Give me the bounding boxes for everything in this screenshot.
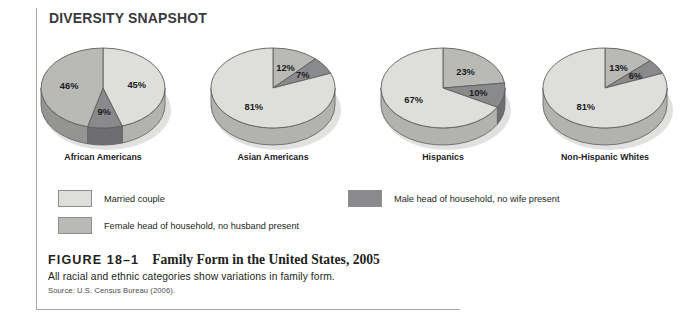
pie-chart-2: 12%7%81%Asian Americans xyxy=(188,32,358,184)
figure-number: FIGURE 18–1 xyxy=(48,253,139,267)
legend-row: Female head of household, no husband pre… xyxy=(58,217,618,237)
pie-chart-3: 23%10%67%Hispanics xyxy=(358,32,528,184)
slice-percent-label: 81% xyxy=(577,102,596,112)
legend-label: Married couple xyxy=(104,194,165,204)
pie-chart-graphic: 13%6%81% xyxy=(520,32,690,152)
pie-chart-graphic: 45%9%46% xyxy=(18,32,188,152)
slice-percent-label: 6% xyxy=(629,71,643,81)
panel-bottom-rule xyxy=(36,309,460,310)
legend-item[interactable]: Female head of household, no husband pre… xyxy=(58,217,299,234)
slice-percent-label: 23% xyxy=(456,67,475,77)
caption-heading: FIGURE 18–1Family Form in the United Sta… xyxy=(48,250,518,268)
legend-item[interactable]: Married couple xyxy=(58,190,165,207)
legend-item[interactable]: Male head of household, no wife present xyxy=(348,190,560,207)
figure-panel: DIVERSITY SNAPSHOT 45%9%46%African Ameri… xyxy=(0,0,694,324)
pie-chart-category-label: Asian Americans xyxy=(188,152,358,162)
legend-swatch xyxy=(58,190,92,207)
pie-chart-row: 45%9%46%African Americans12%7%81%Asian A… xyxy=(0,32,694,162)
slice-percent-label: 45% xyxy=(127,80,146,90)
page-title: DIVERSITY SNAPSHOT xyxy=(49,9,207,27)
pie-chart-1: 45%9%46%African Americans xyxy=(18,32,188,184)
slice-percent-label: 81% xyxy=(245,102,264,112)
slice-percent-label: 46% xyxy=(60,81,79,91)
caption-subtitle: All racial and ethnic categories show va… xyxy=(48,271,518,282)
legend-label: Male head of household, no wife present xyxy=(394,194,560,204)
slice-percent-label: 12% xyxy=(276,63,295,73)
figure-title: Family Form in the United States, 2005 xyxy=(152,252,380,267)
chart-legend: Married coupleMale head of household, no… xyxy=(58,190,618,242)
slice-percent-label: 67% xyxy=(404,95,423,105)
legend-row: Married coupleMale head of household, no… xyxy=(58,190,618,210)
pie-chart-category-label: Non-Hispanic Whites xyxy=(520,152,690,162)
legend-swatch xyxy=(58,217,92,234)
pie-chart-graphic: 23%10%67% xyxy=(358,32,528,152)
legend-swatch xyxy=(348,190,382,207)
pie-chart-graphic: 12%7%81% xyxy=(188,32,358,152)
figure-caption: FIGURE 18–1Family Form in the United Sta… xyxy=(48,250,518,295)
slice-percent-label: 7% xyxy=(296,70,310,80)
pie-chart-category-label: African Americans xyxy=(18,152,188,162)
slice-percent-label: 10% xyxy=(469,88,488,98)
legend-label: Female head of household, no husband pre… xyxy=(104,221,299,231)
slice-percent-label: 13% xyxy=(609,63,628,73)
caption-source: Source: U.S. Census Bureau (2006). xyxy=(48,286,518,295)
slice-percent-label: 9% xyxy=(97,107,111,117)
pie-chart-category-label: Hispanics xyxy=(358,152,528,162)
pie-chart-4: 13%6%81%Non-Hispanic Whites xyxy=(520,32,690,184)
